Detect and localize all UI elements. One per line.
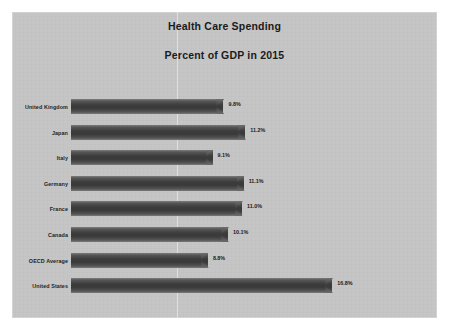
bar-value-label: 9.8% <box>228 101 240 107</box>
bar-track: 11.0% <box>71 196 437 222</box>
bar[interactable] <box>71 278 332 293</box>
bar-row: United States16.8% <box>12 273 437 299</box>
bar-row: OECD Average8.8% <box>12 248 437 274</box>
bar-value-label: 11.0% <box>247 203 262 209</box>
bar-value-label: 8.8% <box>213 255 225 261</box>
category-label: France <box>12 206 68 212</box>
bar-value-label: 11.1% <box>249 178 264 184</box>
bar-track: 9.1% <box>71 145 437 171</box>
chart-title-block: Health Care Spending Percent of GDP in 2… <box>12 20 437 62</box>
bar-value-label: 9.1% <box>218 152 230 158</box>
category-label: Canada <box>12 232 68 238</box>
bar-track: 8.8% <box>71 248 437 274</box>
bar[interactable] <box>71 176 244 191</box>
bar-row: Japan11.2% <box>12 120 437 146</box>
bar-value-label: 10.1% <box>233 229 248 235</box>
category-label: Italy <box>12 155 68 161</box>
category-label: Japan <box>12 130 68 136</box>
bar-value-label: 11.2% <box>250 127 265 133</box>
bar-row: Germany11.1% <box>12 171 437 197</box>
bar-row: Canada10.1% <box>12 222 437 248</box>
bar[interactable] <box>71 99 223 114</box>
bar-row: Italy9.1% <box>12 145 437 171</box>
category-label: United Kingdom <box>12 104 68 110</box>
bar[interactable] <box>71 227 228 242</box>
category-label: OECD Average <box>12 258 68 264</box>
bar-track: 11.1% <box>71 171 437 197</box>
category-label: Germany <box>12 181 68 187</box>
bar-row: France11.0% <box>12 196 437 222</box>
slide-canvas: Health Care Spending Percent of GDP in 2… <box>12 12 437 318</box>
bar-track: 11.2% <box>71 120 437 146</box>
bar-track: 9.8% <box>71 94 437 120</box>
bar-row: United Kingdom9.8% <box>12 94 437 120</box>
chart-title-line-1: Health Care Spending <box>12 20 437 33</box>
bar[interactable] <box>71 253 208 268</box>
bar-value-label: 16.8% <box>337 280 352 286</box>
bar[interactable] <box>71 125 245 140</box>
category-label: United States <box>12 283 68 289</box>
bar-track: 10.1% <box>71 222 437 248</box>
bar-track: 16.8% <box>71 273 437 299</box>
bar[interactable] <box>71 201 242 216</box>
chart-subtitle-line: Percent of GDP in 2015 <box>12 49 437 62</box>
bar-chart-plot-area: United Kingdom9.8%Japan11.2%Italy9.1%Ger… <box>12 94 437 306</box>
bar[interactable] <box>71 150 213 165</box>
